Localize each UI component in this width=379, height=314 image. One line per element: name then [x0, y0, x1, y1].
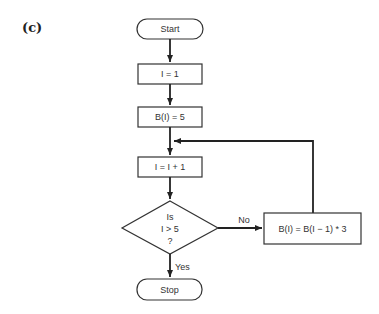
process-b-equals-5: B(I) = 5	[138, 107, 202, 127]
no-label: No	[238, 215, 250, 225]
stop-terminator: Stop	[137, 279, 202, 300]
decision-line2: I > 5	[161, 224, 179, 234]
decision-line1: Is	[166, 212, 174, 222]
process-b-times-3: B(I) = B(I − 1) * 3	[264, 213, 361, 244]
process-i-equals-1: I = 1	[138, 64, 202, 84]
process-i-equals-1-text: I = 1	[161, 69, 179, 79]
start-terminator: Start	[137, 19, 203, 39]
flowchart: (c) Start I = 1 B(I) = 5 I = I + 1 Is I …	[0, 0, 379, 314]
process-b-times-3-text: B(I) = B(I − 1) * 3	[278, 224, 346, 234]
process-increment-i: I = I + 1	[138, 157, 202, 177]
process-increment-i-text: I = I + 1	[155, 162, 186, 172]
process-b-equals-5-text: B(I) = 5	[155, 112, 185, 122]
decision-line3: ?	[167, 236, 172, 246]
stop-text: Stop	[160, 285, 179, 295]
figure-label: (c)	[22, 20, 42, 35]
start-text: Start	[160, 24, 180, 34]
decision-i-greater-5: Is I > 5 ?	[122, 201, 218, 254]
yes-label: Yes	[175, 262, 190, 272]
